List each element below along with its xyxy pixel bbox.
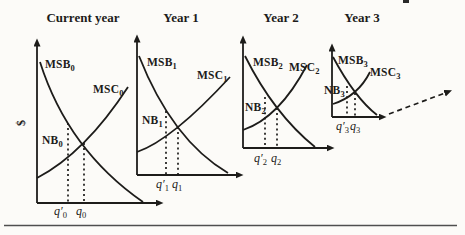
panel-year-3: Year 3 MSB3 MSC3 NB3 q′3 q3 — [324, 10, 401, 135]
q-prime-tick-label: q′1 — [156, 177, 169, 193]
q-tick-label: q2 — [271, 151, 281, 167]
msc-label: MSC3 — [370, 66, 401, 81]
q-tick-label: q3 — [350, 119, 360, 135]
panel-year-1: Year 1 MSB1 MSC1 NB1 q′1 q1 — [137, 10, 236, 193]
page-edge-artifact — [403, 0, 409, 3]
nb-label: NB2 — [245, 101, 266, 116]
figure-canvas: Current year $ MSB0 MSC0 NB0 q′0 q0 Year… — [0, 0, 465, 235]
declining-externality-figure: Current year $ MSB0 MSC0 NB0 q′0 q0 Year… — [0, 0, 465, 235]
panel-current-year: Current year $ MSB0 MSC0 NB0 q′0 q0 — [14, 10, 156, 220]
q-prime-tick-label: q′0 — [54, 204, 67, 220]
q-tick-label: q0 — [76, 204, 86, 220]
panel-year-2: Year 2 MSB2 MSC2 NB2 q′2 q2 — [243, 10, 327, 167]
y-axis-dollar-label: $ — [14, 120, 28, 126]
continuation-dashed-arrow — [389, 93, 445, 114]
q-prime-tick-label: q′2 — [254, 151, 267, 167]
msc-label: MSC2 — [289, 61, 320, 76]
msb-label: MSB0 — [45, 58, 75, 73]
nb-label: NB0 — [42, 134, 63, 149]
panel-title: Year 3 — [344, 10, 380, 25]
msb-label: MSB1 — [147, 56, 177, 71]
nb-label: NB1 — [142, 114, 163, 129]
msc-curve — [243, 65, 307, 130]
msc-curve — [37, 87, 128, 178]
panel-title: Year 2 — [263, 10, 299, 25]
panel-title: Current year — [46, 10, 119, 25]
msb-label: MSB2 — [253, 56, 283, 71]
msc-label: MSC0 — [93, 83, 124, 98]
q-prime-tick-label: q′3 — [336, 119, 349, 135]
msb-curve — [40, 62, 143, 202]
panel-title: Year 1 — [163, 10, 199, 25]
q-tick-label: q1 — [172, 177, 182, 193]
nb-label: NB3 — [324, 84, 345, 99]
msc-label: MSC1 — [197, 69, 228, 84]
msb-label: MSB3 — [338, 54, 368, 69]
